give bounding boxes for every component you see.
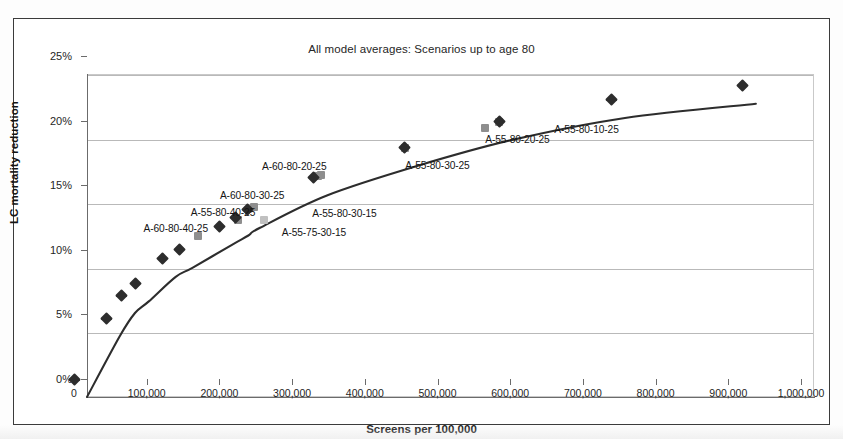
x-tick-mark (801, 379, 802, 385)
x-tick-mark (219, 379, 220, 385)
x-tick-mark (438, 379, 439, 385)
point-label: A-55-80-30-25 (405, 160, 469, 171)
x-tick-label: 100,000 (128, 387, 166, 399)
chart-title: All model averages: Scenarios up to age … (14, 43, 829, 55)
point-label: A-60-80-40-25 (144, 223, 208, 234)
gridline-y (88, 140, 813, 141)
x-tick-label: 1,000,000 (778, 387, 825, 399)
point-label: A-55-80-40-25 (191, 206, 255, 217)
y-tick-label: 25% (20, 50, 72, 62)
y-tick-mark (81, 314, 87, 315)
x-tick-label: 600,000 (491, 387, 529, 399)
x-tick-mark (728, 379, 729, 385)
y-tick-mark (81, 250, 87, 251)
gridline-y (88, 269, 813, 270)
y-tick-mark (81, 56, 87, 57)
y-tick-label: 5% (20, 308, 72, 320)
y-tick-mark (81, 185, 87, 186)
x-tick-mark (656, 379, 657, 385)
y-axis-title: LC mortality reduction (8, 101, 20, 224)
x-tick-label: 0 (71, 387, 77, 399)
point-label: A-55-80-30-15 (312, 207, 376, 218)
y-tick-label: 15% (20, 179, 72, 191)
x-tick-mark (365, 379, 366, 385)
point-label: A-55-80-20-25 (485, 134, 549, 145)
x-tick-label: 800,000 (637, 387, 675, 399)
x-tick-label: 400,000 (346, 387, 384, 399)
x-tick-mark (583, 379, 584, 385)
point-label: A-60-80-30-25 (220, 189, 284, 200)
x-tick-label: 200,000 (200, 387, 238, 399)
x-tick-mark (510, 379, 511, 385)
point-label: A-55-75-30-15 (282, 227, 346, 238)
x-tick-mark (292, 379, 293, 385)
x-tick-label: 900,000 (709, 387, 747, 399)
gridline-y (88, 204, 813, 205)
y-axis-line (87, 74, 88, 398)
point-label: A-60-80-20-25 (262, 161, 326, 172)
x-tick-label: 700,000 (564, 387, 602, 399)
gridline-y (88, 75, 813, 76)
y-tick-mark (81, 379, 87, 380)
data-point-marker (481, 124, 489, 132)
point-label: A-55-80-10-25 (554, 123, 618, 134)
data-point-marker (260, 216, 268, 224)
x-tick-label: 500,000 (419, 387, 457, 399)
figure-frame: All model averages: Scenarios up to age … (13, 18, 830, 425)
y-tick-label: 20% (20, 115, 72, 127)
gridline-y (88, 333, 813, 334)
scan-noise (0, 425, 843, 439)
x-tick-label: 300,000 (273, 387, 311, 399)
y-tick-label: 0% (20, 373, 72, 385)
figure-page: All model averages: Scenarios up to age … (0, 0, 843, 439)
y-tick-label: 10% (20, 244, 72, 256)
x-tick-mark (147, 379, 148, 385)
y-tick-mark (81, 121, 87, 122)
